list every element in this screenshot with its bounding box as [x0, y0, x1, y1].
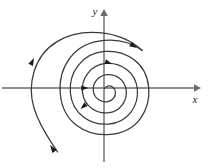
spiral-figure: x y	[0, 0, 208, 168]
y-axis-arrowhead	[100, 9, 108, 16]
figure-canvas: x y	[0, 0, 208, 168]
spiral-outer-turn	[31, 32, 142, 152]
inner-loop-left-arrow-icon	[81, 86, 88, 91]
y-axis-label: y	[92, 5, 98, 17]
x-axis-label: x	[192, 93, 198, 105]
outer-loop-upper-left-arrow-icon	[28, 57, 36, 66]
x-axis-arrowhead	[194, 84, 201, 92]
